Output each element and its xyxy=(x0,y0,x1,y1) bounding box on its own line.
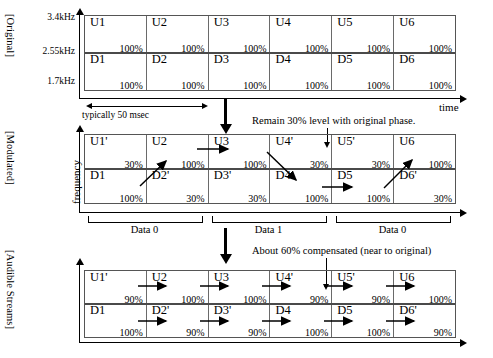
cell-label: U1' xyxy=(90,270,108,285)
cell-modulated-U6: U6100% xyxy=(394,135,455,169)
cell-modulated-D4: D4100% xyxy=(270,169,332,203)
cell-label: D5 xyxy=(337,168,352,183)
cell-original-U2: U2100% xyxy=(147,16,209,53)
measure-arrow-right-icon xyxy=(202,103,208,109)
cell-label: D6 xyxy=(399,52,414,67)
cell-audible-streams-D1: D1100% xyxy=(85,304,147,337)
cell-audible-streams-U2: U2100% xyxy=(147,271,209,304)
cell-label: U4 xyxy=(275,15,290,30)
cell-label: U1' xyxy=(90,134,108,149)
modulated-grid: U1'30%U2100%U3100%U4'30%U5'30%U6100% D11… xyxy=(84,134,456,204)
data-bracket-2 xyxy=(336,216,451,223)
flow-arrow-modulated-to-audible xyxy=(224,228,227,255)
freq-tick-1-7khz: 1.7kHz xyxy=(30,76,75,86)
axis-arrow-icon xyxy=(76,8,84,15)
cell-original-D3: D3100% xyxy=(209,53,271,90)
cell-label: U3 xyxy=(214,270,229,285)
cell-audible-streams-D3p: D3'90% xyxy=(209,304,271,337)
cell-label: D3' xyxy=(214,168,232,183)
cell-modulated-D5: D5100% xyxy=(332,169,394,203)
time-axis-audible xyxy=(79,342,460,343)
cell-label: D1 xyxy=(90,303,105,318)
frequency-axis-original xyxy=(79,14,80,98)
original-upper-row: U1100%U2100%U3100%U4100%U5100%U6100% xyxy=(85,16,455,53)
cell-percent: 90% xyxy=(186,327,204,339)
cell-label: U3 xyxy=(214,134,229,149)
original-lower-row: D1100%D2100%D3100%D4100%D5100%D6100% xyxy=(85,53,455,90)
data-bracket-label-2: Data 0 xyxy=(336,224,449,235)
axis-arrow-icon xyxy=(460,95,467,103)
frequency-axis-label: frequency xyxy=(70,160,82,204)
cell-original-D2: D2100% xyxy=(147,53,209,90)
cell-percent: 90% xyxy=(248,327,266,339)
freq-tick-3-4khz: 3.4kHz xyxy=(30,12,75,22)
cell-audible-streams-D4: D4100% xyxy=(270,304,332,337)
cell-label: D5 xyxy=(337,52,352,67)
cell-percent: 100% xyxy=(119,193,142,205)
time-axis-label: time xyxy=(439,101,459,113)
band-split-line xyxy=(85,168,455,170)
cell-modulated-U5p: U5'30% xyxy=(332,135,394,169)
figure-canvas: [Original] [Modulated] [Audible Streams]… xyxy=(0,0,493,358)
audible-lower-row: D1100%D2'90%D3'90%D4100%D5100%D6'90% xyxy=(85,304,455,337)
cell-label: D6' xyxy=(399,303,417,318)
cell-percent: 100% xyxy=(367,327,390,339)
cell-label: U6 xyxy=(399,270,414,285)
cell-audible-streams-U3: U3100% xyxy=(209,271,271,304)
arrow-head-icon xyxy=(220,254,232,264)
cell-modulated-D1: D1100% xyxy=(85,169,147,203)
cell-label: U5' xyxy=(337,134,355,149)
cell-label: D6' xyxy=(399,168,417,183)
cell-original-D5: D5100% xyxy=(332,53,394,90)
cell-percent: 100% xyxy=(243,80,266,92)
cell-audible-streams-D2p: D2'90% xyxy=(147,304,209,337)
cell-modulated-D2p: D2'30% xyxy=(147,169,209,203)
audible-annotation: About 60% compensated (near to original) xyxy=(252,245,431,256)
cell-label: U2 xyxy=(152,134,167,149)
cell-percent: 100% xyxy=(429,80,452,92)
cell-audible-streams-D6p: D6'90% xyxy=(394,304,455,337)
cell-percent: 100% xyxy=(367,80,390,92)
time-axis-original xyxy=(79,98,460,99)
cell-label: U2 xyxy=(152,270,167,285)
cell-label: D5 xyxy=(337,303,352,318)
cell-audible-streams-U1p: U1'90% xyxy=(85,271,147,304)
cell-modulated-U1p: U1'30% xyxy=(85,135,147,169)
data-bracket-0 xyxy=(88,216,203,223)
cell-percent: 100% xyxy=(181,80,204,92)
flow-arrow-original-to-modulated xyxy=(224,99,227,125)
time-axis-modulated xyxy=(79,212,460,213)
cell-label: U6 xyxy=(399,15,414,30)
cell-original-U1: U1100% xyxy=(85,16,147,53)
cell-percent: 100% xyxy=(305,193,328,205)
freq-tick-2-55khz: 2.55kHz xyxy=(26,46,75,56)
data-bracket-label-0: Data 0 xyxy=(88,224,201,235)
cell-modulated-U3: U3100% xyxy=(209,135,271,169)
modulated-lower-row: D1100%D2'30%D3'30%D4100%D5100%D6'30% xyxy=(85,169,455,203)
cell-label: D2' xyxy=(152,168,170,183)
cell-percent: 30% xyxy=(434,193,452,205)
cell-original-U4: U4100% xyxy=(270,16,332,53)
data-bracket-1 xyxy=(212,216,327,223)
modulated-upper-row: U1'30%U2100%U3100%U4'30%U5'30%U6100% xyxy=(85,135,455,169)
cell-percent: 90% xyxy=(434,327,452,339)
axis-arrow-icon xyxy=(460,339,467,347)
cell-percent: 100% xyxy=(119,80,142,92)
cell-label: D3 xyxy=(214,52,229,67)
cell-label: U4' xyxy=(275,134,293,149)
cell-audible-streams-U4p: U4'90% xyxy=(270,271,332,304)
cell-audible-streams-U5p: U5'90% xyxy=(332,271,394,304)
cell-original-U3: U3100% xyxy=(209,16,271,53)
cell-label: D1 xyxy=(90,168,105,183)
cell-original-U5: U5100% xyxy=(332,16,394,53)
cell-percent: 100% xyxy=(119,327,142,339)
axis-arrow-icon xyxy=(76,125,84,132)
audible-upper-row: U1'90%U2100%U3100%U4'90%U5'90%U6100% xyxy=(85,271,455,304)
cell-modulated-D6p: D6'30% xyxy=(394,169,455,203)
cell-label: U2 xyxy=(152,15,167,30)
cell-label: U6 xyxy=(399,134,414,149)
side-label-audible-streams: [Audible Streams] xyxy=(5,250,16,329)
frame-duration-measure xyxy=(92,106,202,107)
side-label-modulated: [Modulated] xyxy=(5,131,16,185)
cell-original-D1: D1100% xyxy=(85,53,147,90)
